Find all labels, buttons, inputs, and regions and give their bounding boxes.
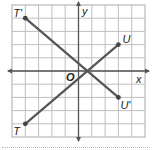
point-label: T' xyxy=(13,7,23,19)
x-axis-left-arrow-icon xyxy=(7,69,12,74)
dotted-divider xyxy=(2,147,150,148)
y-axis-down-arrow-icon xyxy=(76,137,81,142)
x-axis-right-arrow-icon xyxy=(145,69,150,74)
point-dot xyxy=(23,16,28,21)
point-dot xyxy=(116,42,121,47)
y-axis-up-arrow-icon xyxy=(76,1,81,6)
origin-label: O xyxy=(66,71,75,83)
coordinate-plane: T'UU'T x y O xyxy=(0,0,152,150)
point-dot xyxy=(23,121,28,126)
x-axis-label: x xyxy=(135,73,142,85)
point-label: U xyxy=(122,33,130,45)
point-label: U' xyxy=(120,99,131,111)
